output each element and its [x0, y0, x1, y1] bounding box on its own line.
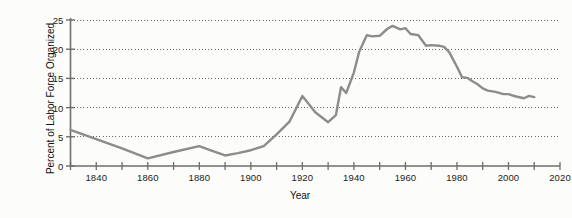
y-tick-label: 0: [45, 161, 64, 172]
y-tick-label: 25: [45, 15, 64, 26]
x-tick-label: 2020: [549, 172, 571, 183]
x-tick-label: 1960: [395, 172, 417, 183]
data-series-line: [71, 26, 535, 159]
y-axis-title: Percent of Labor Force Organized: [45, 14, 56, 184]
x-tick-label: 2000: [498, 172, 520, 183]
chart-container: Percent of Labor Force Organized Year 18…: [0, 0, 572, 218]
x-tick-label: 1940: [343, 172, 365, 183]
y-tick-label: 20: [45, 44, 64, 55]
x-tick-label: 1880: [189, 172, 211, 183]
x-tick-label: 1900: [240, 172, 262, 183]
x-tick-label: 1980: [446, 172, 468, 183]
x-tick-label: 1840: [85, 172, 107, 183]
y-tick-label: 15: [45, 73, 64, 84]
line-chart-plot: [0, 0, 572, 218]
x-tick-label: 1920: [292, 172, 314, 183]
y-tick-label: 10: [45, 102, 64, 113]
x-tick-label: 1860: [137, 172, 159, 183]
y-tick-label: 5: [45, 131, 64, 142]
x-axis-title: Year: [290, 190, 310, 201]
